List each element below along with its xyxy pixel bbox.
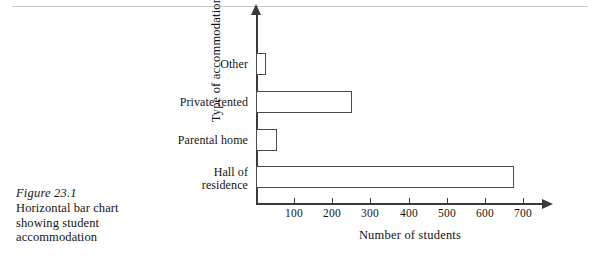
category-label-other-line1: Other	[220, 57, 248, 71]
bar-other	[256, 53, 266, 75]
x-tick-label-400: 400	[389, 207, 429, 219]
category-label-hall-line2: residence	[202, 178, 248, 192]
x-tick-600	[485, 198, 486, 204]
y-axis-arrowhead	[251, 4, 261, 15]
figure-description-line1: Horizontal bar chart	[16, 201, 186, 216]
figure-description-line2: showing student	[16, 216, 186, 231]
figure-number: Figure 23.1	[16, 186, 186, 201]
x-tick-label-200: 200	[312, 207, 352, 219]
x-axis-line	[256, 203, 544, 205]
x-tick-label-500: 500	[427, 207, 467, 219]
category-label-parental-home-line1: Parental home	[178, 133, 248, 147]
x-tick-label-600: 600	[465, 207, 505, 219]
x-tick-label-300: 300	[350, 207, 390, 219]
x-tick-300	[370, 198, 371, 204]
x-tick-700	[523, 198, 524, 204]
x-tick-500	[447, 198, 448, 204]
y-axis-title: Type of accommodation	[209, 0, 224, 125]
category-label-hall-line1: Hall of	[214, 165, 248, 179]
figure-description-line3: accommodation	[16, 230, 186, 245]
x-tick-400	[409, 198, 410, 204]
category-label-other: Other	[150, 58, 248, 71]
figure-caption: Figure 23.1 Horizontal bar chart showing…	[16, 186, 186, 245]
bar-parental-home	[256, 129, 277, 151]
category-label-private-rented: Private rented	[150, 96, 248, 109]
x-axis-title: Number of students	[300, 228, 520, 243]
x-tick-label-100: 100	[274, 207, 314, 219]
bar-private-rented	[256, 91, 352, 113]
category-label-parental-home: Parental home	[150, 134, 248, 147]
x-axis-arrowhead	[542, 199, 553, 209]
bar-hall-of-residence	[256, 166, 514, 188]
x-tick-label-700: 700	[503, 207, 543, 219]
x-tick-100	[294, 198, 295, 204]
x-tick-200	[332, 198, 333, 204]
